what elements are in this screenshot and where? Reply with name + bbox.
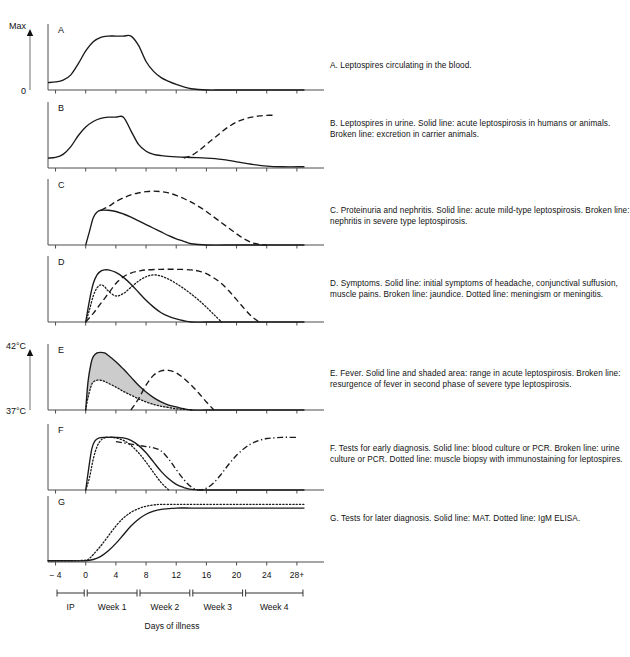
panel-A: AMax0 <box>9 21 324 96</box>
y-axis-arrow-head <box>27 349 33 356</box>
panel-B: B <box>48 102 324 172</box>
curve-solid <box>86 437 305 490</box>
curve-solid <box>48 508 304 561</box>
x-tick-label: 24 <box>262 570 272 580</box>
panel-caption-C: C. Proteinuria and nephritis. Solid line… <box>330 205 630 228</box>
panel-axes <box>48 496 324 562</box>
panel-axes <box>48 24 324 90</box>
curve-dashed <box>86 269 259 322</box>
panel-caption-E: E. Fever. Solid line and shaded area: ra… <box>330 368 630 391</box>
period-label: Week 2 <box>151 602 180 612</box>
panel-letter: C <box>58 180 65 190</box>
period-label: Week 3 <box>203 602 232 612</box>
y-axis-top-label: 42°C <box>6 341 27 351</box>
x-tick-label: 20 <box>232 570 242 580</box>
period-bracket <box>246 590 303 597</box>
period-label: Week 1 <box>98 602 127 612</box>
panel-letter: B <box>58 103 64 113</box>
panel-letter: E <box>58 345 64 355</box>
y-axis-top-label: Max <box>9 21 27 31</box>
panel-D: D <box>48 256 324 326</box>
panel-letter: D <box>58 257 65 267</box>
panel-caption-A: A. Leptospires circulating in the blood. <box>330 60 630 71</box>
panel-letter: A <box>58 25 64 35</box>
panel-caption-B: B. Leptospires in urine. Solid line: acu… <box>330 118 630 141</box>
x-tick-label: 4 <box>114 570 119 580</box>
x-tick-label: 0 <box>83 570 88 580</box>
x-axis-annotations: − 40481216202428+IPWeek 1Week 2Week 3Wee… <box>50 570 305 631</box>
panel-C: C <box>48 179 324 249</box>
x-tick-label: 8 <box>144 570 149 580</box>
period-label: IP <box>67 602 75 612</box>
x-tick-label: 28+ <box>290 570 304 580</box>
curve-dashed <box>184 115 275 158</box>
curve-dotted <box>86 437 169 490</box>
curve-dashdot <box>116 437 297 490</box>
x-tick-label: − 4 <box>50 570 62 580</box>
curve-dashed <box>101 191 267 245</box>
panel-caption-D: D. Symptoms. Solid line: initial symptom… <box>330 278 630 301</box>
curve-solid <box>48 35 304 90</box>
curve-dashed <box>131 370 214 410</box>
x-tick-label: 16 <box>202 570 212 580</box>
panel-letter: F <box>58 425 64 435</box>
panel-F: F <box>48 424 324 494</box>
x-axis-label: Days of illness <box>145 621 200 631</box>
panel-G: G <box>48 496 324 566</box>
period-bracket <box>140 590 190 597</box>
panel-axes <box>48 179 324 245</box>
curve-solid <box>86 210 305 245</box>
period-label: Week 4 <box>260 602 289 612</box>
curve-dotted <box>48 504 304 561</box>
panel-E: E42°C37°C <box>6 341 324 416</box>
curve-solid <box>48 116 304 167</box>
curve-dotted <box>86 275 222 322</box>
x-tick-label: 12 <box>171 570 181 580</box>
panel-letter: G <box>58 497 65 507</box>
period-bracket <box>57 590 84 597</box>
period-bracket <box>87 590 137 597</box>
y-axis-arrow-head <box>27 29 33 36</box>
y-axis-bottom-label: 0 <box>21 86 26 96</box>
period-bracket <box>193 590 243 597</box>
panel-caption-F: F. Tests for early diagnosis. Solid line… <box>330 443 630 466</box>
fever-range-shaded-area <box>86 352 305 410</box>
y-axis-bottom-label: 37°C <box>6 406 27 416</box>
panel-caption-G: G. Tests for later diagnosis. Solid line… <box>330 513 630 524</box>
